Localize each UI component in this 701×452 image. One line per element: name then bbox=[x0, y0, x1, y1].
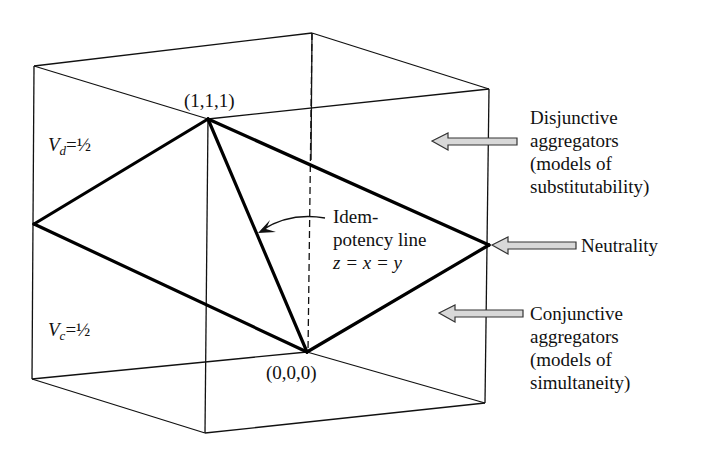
neutrality-arrow-icon bbox=[492, 237, 576, 254]
idempotency-pointer-arrow bbox=[258, 217, 325, 234]
vertex-label-top: (1,1,1) bbox=[184, 89, 235, 112]
vd-label: Vd=½ bbox=[48, 133, 91, 162]
disjunctive-arrow-icon bbox=[432, 133, 517, 150]
neutrality-label: Neutrality bbox=[581, 234, 658, 257]
conjunctive-label: Conjunctive aggregators (models of simul… bbox=[530, 302, 630, 394]
aggregator-cube-diagram: (1,1,1) (0,0,0) Vd=½ Vc=½ Idem- potency … bbox=[0, 0, 701, 452]
vc-label: Vc=½ bbox=[48, 318, 90, 347]
hidden-edge-solid-top bbox=[311, 33, 312, 160]
conjunctive-arrow-icon bbox=[439, 305, 523, 322]
vertex-label-bottom: (0,0,0) bbox=[266, 361, 317, 384]
idempotency-label: Idem- potency line z = x = y bbox=[333, 205, 426, 274]
disjunctive-label: Disjunctive aggregators (models of subst… bbox=[530, 106, 649, 198]
